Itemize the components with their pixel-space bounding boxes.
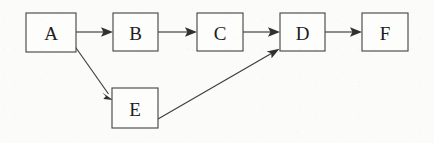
node-a[interactable]: A [26, 13, 76, 52]
node-d-label: D [296, 23, 310, 44]
edge-b-to-c [158, 27, 197, 37]
node-b[interactable]: B [113, 13, 158, 51]
edge-d-to-f [325, 27, 362, 37]
node-b-label: B [129, 23, 142, 44]
node-f-label: F [380, 23, 391, 44]
edge-e-to-d-line [158, 53, 273, 119]
node-e[interactable]: E [112, 88, 158, 128]
diagram-canvas: A B C D F E [0, 0, 434, 143]
node-a-label: A [44, 23, 58, 44]
edge-c-to-d [243, 27, 280, 37]
edge-e-to-d [158, 49, 280, 119]
edge-a-to-e-line [74, 45, 109, 94]
node-d[interactable]: D [280, 13, 325, 51]
flowchart-diagram: A B C D F E [0, 0, 434, 143]
node-f[interactable]: F [362, 13, 408, 51]
node-group: A B C D F E [26, 13, 408, 128]
edge-e-to-d-arrowhead [267, 49, 280, 58]
edge-a-to-e [74, 45, 113, 100]
node-c-label: C [214, 23, 227, 44]
node-c[interactable]: C [197, 13, 243, 51]
node-e-label: E [129, 99, 141, 120]
edge-a-to-b [76, 27, 113, 37]
